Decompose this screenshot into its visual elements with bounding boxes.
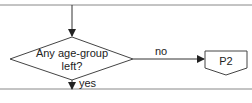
connector-label: P2 xyxy=(219,55,232,67)
decision-text-line1: Any age-group xyxy=(36,47,108,59)
no-label: no xyxy=(155,45,167,57)
decision-text-line2: left? xyxy=(62,60,83,72)
yes-label: yes xyxy=(79,77,97,89)
flowchart-fragment: Any age-group left? no P2 yes xyxy=(0,0,252,103)
